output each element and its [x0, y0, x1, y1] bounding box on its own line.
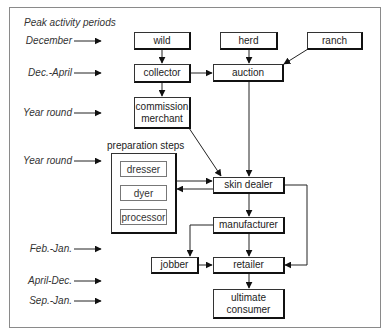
step-dyer: dyer	[120, 185, 167, 201]
period-label-april-dec: April-Dec.	[28, 275, 72, 286]
node-herd: herd	[220, 32, 278, 50]
node-commission-merchant-line1: commission	[136, 101, 189, 113]
node-herd-label: herd	[238, 35, 258, 47]
step-dresser: dresser	[120, 161, 167, 177]
step-dresser-label: dresser	[127, 164, 160, 175]
node-commission-merchant-line2: merchant	[141, 113, 183, 125]
node-commission-merchant: commission merchant	[134, 97, 191, 129]
period-label-year-round-1: Year round	[23, 107, 72, 118]
node-retailer-label: retailer	[233, 259, 264, 271]
node-ultimate-consumer-line1: ultimate	[231, 292, 266, 304]
node-retailer: retailer	[213, 257, 285, 274]
step-processor-label: processor	[122, 212, 166, 223]
step-dyer-label: dyer	[134, 188, 153, 199]
period-label-sep-jan: Sep.-Jan.	[29, 295, 72, 306]
peak-periods-heading: Peak activity periods	[24, 17, 116, 28]
period-label-dec-april: Dec.-April	[28, 67, 72, 78]
node-ultimate-consumer: ultimate consumer	[213, 289, 285, 319]
node-auction: auction	[213, 64, 284, 82]
preparation-steps-title: preparation steps	[107, 140, 184, 151]
node-collector: collector	[134, 64, 191, 83]
step-processor: processor	[120, 209, 167, 225]
period-label-december: December	[26, 35, 72, 46]
node-manufacturer-label: manufacturer	[219, 219, 278, 231]
node-ultimate-consumer-line2: consumer	[227, 304, 271, 316]
node-skin-dealer: skin dealer	[213, 177, 285, 194]
node-wild-label: wild	[153, 35, 170, 47]
node-jobber-label: jobber	[161, 259, 189, 271]
period-label-feb-jan: Feb.-Jan.	[30, 243, 72, 254]
node-ranch: ranch	[307, 32, 363, 50]
node-jobber: jobber	[151, 257, 199, 274]
node-wild: wild	[134, 32, 191, 50]
node-skin-dealer-label: skin dealer	[224, 179, 272, 191]
node-collector-label: collector	[143, 67, 180, 79]
node-auction-label: auction	[232, 67, 264, 79]
node-ranch-label: ranch	[322, 35, 347, 47]
node-manufacturer: manufacturer	[213, 217, 285, 234]
period-label-year-round-2: Year round	[23, 155, 72, 166]
